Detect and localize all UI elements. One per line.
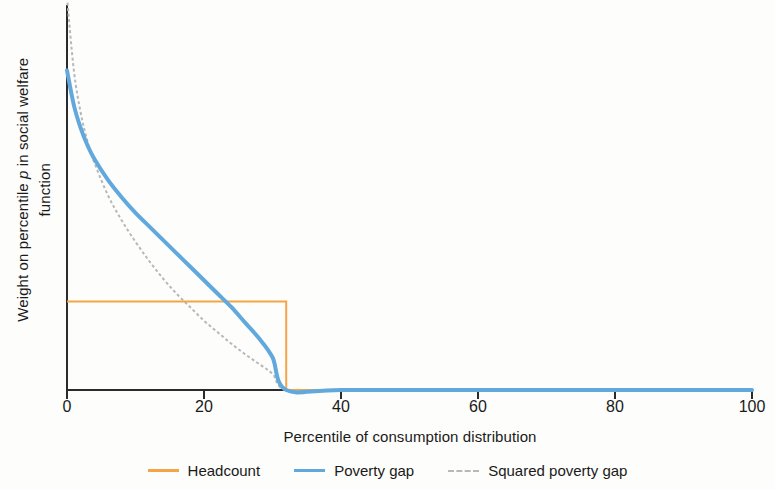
- chart-legend: HeadcountPoverty gapSquared poverty gap: [0, 462, 775, 479]
- y-axis-title-before: Weight on percentile: [14, 179, 31, 322]
- legend-item[interactable]: Headcount: [148, 462, 261, 479]
- chart-container: Weight on percentile p in social welfare…: [0, 0, 775, 489]
- x-axis-tick-label: 20: [195, 398, 213, 416]
- series-line-headcount: [67, 301, 752, 390]
- x-axis-tick-label: 40: [332, 398, 350, 416]
- legend-swatch-icon: [448, 470, 479, 472]
- x-axis-tick-label: 100: [739, 398, 766, 416]
- x-axis-tick-label: 80: [606, 398, 624, 416]
- legend-label: Poverty gap: [334, 462, 414, 479]
- y-axis-title: Weight on percentile p in social welfare…: [12, 30, 56, 350]
- legend-label: Squared poverty gap: [488, 462, 627, 479]
- legend-swatch-icon: [294, 469, 325, 472]
- legend-item[interactable]: Squared poverty gap: [448, 462, 627, 479]
- x-axis-title: Percentile of consumption distribution: [67, 428, 753, 445]
- x-axis-tick-label: 60: [469, 398, 487, 416]
- series-line-squared-poverty-gap: [67, 0, 752, 391]
- series-line-poverty-gap: [67, 70, 752, 392]
- legend-swatch-icon: [148, 469, 179, 472]
- y-axis-title-variable: p: [14, 171, 31, 179]
- legend-item[interactable]: Poverty gap: [294, 462, 414, 479]
- plot-area: [0, 0, 775, 489]
- axes-group: [67, 5, 752, 399]
- series-group: [67, 0, 752, 392]
- legend-label: Headcount: [188, 462, 261, 479]
- x-axis-tick-label: 0: [63, 398, 72, 416]
